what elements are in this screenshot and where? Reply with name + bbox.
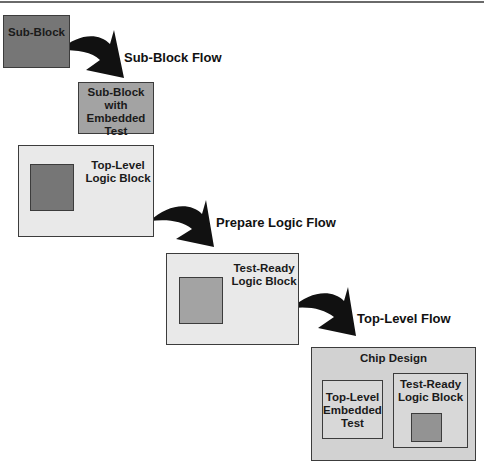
label-line: Top-Level	[83, 159, 153, 172]
label-line: Embedded	[323, 404, 382, 417]
label-line: Logic Block	[394, 391, 467, 404]
label-line: Test	[323, 417, 382, 430]
chip-design: Chip Design Top-Level Embedded Test Test…	[311, 347, 476, 461]
sub-block-flow-label: Sub-Block Flow	[124, 50, 222, 65]
label-line: Logic Block	[231, 275, 297, 288]
chip-design-label: Chip Design	[312, 352, 475, 365]
prepare-logic-flow-arrow-icon	[150, 200, 214, 247]
top-level-embedded-test: Top-Level Embedded Test	[322, 380, 383, 439]
label-line: Top-Level	[323, 391, 382, 404]
top-level-logic-block: Top-Level Logic Block	[18, 145, 154, 237]
sub-block-with-embedded-test: Sub-Block with Embedded Test	[78, 82, 154, 134]
chip-logic-sub-block	[411, 413, 442, 442]
chip-test-ready-logic-block: Test-Ready Logic Block	[393, 373, 468, 448]
label-line: Logic Block	[83, 172, 153, 185]
sub-block-label: Sub-Block	[4, 26, 69, 39]
sub-block: Sub-Block	[3, 15, 70, 68]
label-line: Test	[79, 125, 153, 138]
label-line: Sub-Block	[79, 86, 153, 99]
top-level-flow-arrow-icon	[292, 287, 356, 336]
label-line: Embedded	[79, 112, 153, 125]
label-line: Test-Ready	[394, 378, 467, 391]
test-ready-sub-block	[179, 277, 223, 324]
logic-sub-block	[30, 164, 74, 211]
prepare-logic-flow-label: Prepare Logic Flow	[216, 215, 336, 230]
label-line: with	[79, 99, 153, 112]
top-level-flow-label: Top-Level Flow	[357, 311, 451, 326]
test-ready-logic-block: Test-Ready Logic Block	[166, 253, 299, 345]
label-line: Test-Ready	[231, 262, 297, 275]
